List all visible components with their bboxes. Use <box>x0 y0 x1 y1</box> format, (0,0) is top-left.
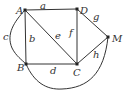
edge-c <box>10 10 26 64</box>
vertex-m-dot <box>107 36 110 39</box>
vertex-d-dot <box>76 8 79 11</box>
edge-label-g: g <box>93 11 99 22</box>
edge-label-h: h <box>93 49 99 60</box>
vertex-label-d: D <box>79 5 88 16</box>
vertex-a-dot <box>24 9 27 12</box>
vertex-c-dot <box>76 63 79 66</box>
vertex-label-m: M <box>111 33 123 44</box>
edge-label-c: c <box>3 31 9 42</box>
edge-b <box>25 10 26 64</box>
vertex-b-dot <box>25 63 28 66</box>
edge-label-a: a <box>40 0 46 11</box>
edge-label-b: b <box>29 33 35 44</box>
vertex-label-c: C <box>73 67 81 78</box>
edge-label-f: f <box>68 27 75 38</box>
edge-label-d: d <box>50 65 56 76</box>
edge-a <box>25 9 77 10</box>
edge-label-e: e <box>55 30 61 41</box>
graph-svg: A D M B C a b c d e f g h <box>0 0 123 101</box>
vertex-label-a: A <box>15 5 23 16</box>
graph-diagram: A D M B C a b c d e f g h <box>0 0 123 101</box>
edge-b-m-curve <box>26 37 108 89</box>
vertex-label-b: B <box>16 62 24 73</box>
